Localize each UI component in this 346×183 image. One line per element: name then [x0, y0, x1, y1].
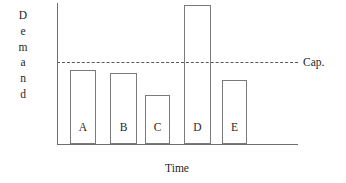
- x-axis-title: Time: [0, 161, 346, 175]
- bar-label-e: E: [223, 121, 246, 134]
- bar-label-d: D: [185, 121, 210, 134]
- capacity-line: [57, 62, 298, 63]
- bar-d: D: [184, 5, 211, 144]
- y-axis-line: [57, 3, 58, 145]
- y-axis-title-letter: a: [12, 55, 34, 71]
- bar-e: E: [222, 80, 247, 144]
- x-axis-title-text: Time: [165, 161, 189, 175]
- y-axis-title-letter: D: [12, 8, 34, 24]
- x-axis-line: [57, 144, 298, 145]
- y-axis-title: D e m a n d: [12, 8, 34, 103]
- bar-b: B: [110, 73, 137, 144]
- bar-label-a: A: [71, 121, 95, 134]
- y-axis-title-letter: e: [12, 24, 34, 40]
- bar-c: C: [145, 95, 170, 144]
- y-axis-title-letter: m: [12, 40, 34, 56]
- bar-label-b: B: [111, 121, 136, 134]
- y-axis-title-letter: d: [12, 87, 34, 103]
- bar-a: A: [70, 70, 96, 144]
- demand-capacity-chart: D e m a n d A B C D E Cap. Time: [0, 0, 346, 183]
- plot-area: A B C D E: [57, 3, 298, 145]
- y-axis-title-letter: n: [12, 71, 34, 87]
- bar-label-c: C: [146, 121, 169, 134]
- capacity-label: Cap.: [303, 56, 324, 69]
